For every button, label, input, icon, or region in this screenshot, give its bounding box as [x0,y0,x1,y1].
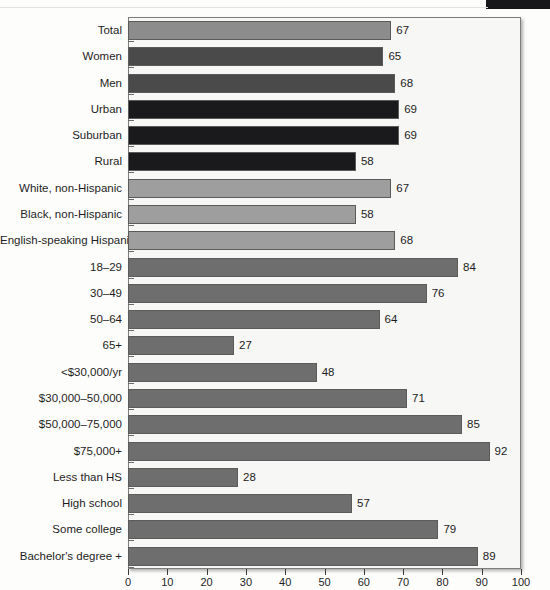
x-axis-tick-label: 20 [200,576,212,588]
bar[interactable] [128,389,407,408]
x-axis-tick-label: 0 [125,576,131,588]
category-label: Suburban [0,122,122,148]
axis-tick-nub [128,435,134,436]
bar[interactable] [128,468,238,487]
category-label: Women [0,43,122,69]
category-label: Rural [0,148,122,174]
chart-plot-area: 6765686969586758688476642748718592285779… [128,17,521,569]
bar-row: 58 [128,201,521,227]
bar-value-label: 28 [238,468,256,487]
bar[interactable] [128,179,391,198]
bar-value-label: 57 [352,494,370,513]
bar[interactable] [128,47,383,66]
bar-value-label: 58 [356,152,374,171]
category-axis-labels: TotalWomenMenUrbanSuburbanRuralWhite, no… [0,17,122,569]
bar-value-label: 69 [399,126,417,145]
bar[interactable] [128,310,380,329]
axis-tick-nub [128,356,134,357]
bar-value-label: 48 [317,363,335,382]
bar-value-label: 76 [427,284,445,303]
x-axis-tick [128,569,129,575]
x-axis-tick-label: 100 [512,576,530,588]
category-label: Total [0,17,122,43]
x-axis-tick-label: 70 [397,576,409,588]
bar-row: 68 [128,227,521,253]
bar-value-label: 68 [395,231,413,250]
category-label: $30,000–50,000 [0,385,122,411]
bar[interactable] [128,284,427,303]
bar[interactable] [128,258,458,277]
x-axis: 0102030405060708090100 [128,569,521,590]
x-axis-tick [285,569,286,575]
x-axis-tick-label: 10 [161,576,173,588]
bar-row: 68 [128,70,521,96]
x-axis-tick-label: 30 [240,576,252,588]
bar-row: 27 [128,332,521,358]
bar-value-label: 89 [478,547,496,566]
axis-tick-nub [128,488,134,489]
scan-artifact-hairline [0,7,488,8]
axis-tick-nub [128,67,134,68]
x-axis-tick [246,569,247,575]
bar-row: 58 [128,148,521,174]
bar[interactable] [128,21,391,40]
bar-value-label: 69 [399,100,417,119]
bar-value-label: 85 [462,415,480,434]
axis-tick-nub [128,514,134,515]
x-axis-tick-label: 50 [318,576,330,588]
axis-tick-nub [128,383,134,384]
bar[interactable] [128,494,352,513]
axis-tick-nub [128,304,134,305]
bar[interactable] [128,442,490,461]
axis-tick-nub [128,278,134,279]
axis-tick-nub [128,225,134,226]
bar-row: 28 [128,464,521,490]
bar[interactable] [128,415,462,434]
bar[interactable] [128,74,395,93]
bar-row: 85 [128,411,521,437]
x-axis-tick-label: 80 [436,576,448,588]
bar-value-label: 65 [383,47,401,66]
bar-row: 65 [128,43,521,69]
bar-row: 79 [128,516,521,542]
category-label: Some college [0,516,122,542]
bar[interactable] [128,152,356,171]
bar-value-label: 67 [391,179,409,198]
bar[interactable] [128,520,438,539]
category-label: $50,000–75,000 [0,411,122,437]
category-label: 30–49 [0,280,122,306]
category-label: Urban [0,96,122,122]
axis-tick-nub [128,330,134,331]
bar-value-label: 84 [458,258,476,277]
bar[interactable] [128,100,399,119]
x-axis-tick [482,569,483,575]
bar[interactable] [128,547,478,566]
category-label: 18–29 [0,254,122,280]
bar[interactable] [128,126,399,145]
bar-row: 84 [128,254,521,280]
axis-tick-nub [128,94,134,95]
bar-row: 69 [128,122,521,148]
category-label: English-speaking Hispanic [0,227,122,253]
bar-row: 69 [128,96,521,122]
bar[interactable] [128,231,395,250]
axis-tick-nub [128,146,134,147]
category-label: 50–64 [0,306,122,332]
bar-value-label: 67 [391,21,409,40]
bar[interactable] [128,363,317,382]
category-label: 65+ [0,332,122,358]
bar-row: 48 [128,359,521,385]
x-axis-tick [442,569,443,575]
category-label: Less than HS [0,464,122,490]
x-axis-tick-label: 60 [358,576,370,588]
bar-value-label: 64 [380,310,398,329]
bar[interactable] [128,205,356,224]
axis-tick-nub [128,409,134,410]
x-axis-tick [207,569,208,575]
bar[interactable] [128,336,234,355]
x-axis-tick [403,569,404,575]
bar-row: 64 [128,306,521,332]
bar-row: 76 [128,280,521,306]
x-axis-tick-label: 90 [476,576,488,588]
bar-row: 92 [128,438,521,464]
